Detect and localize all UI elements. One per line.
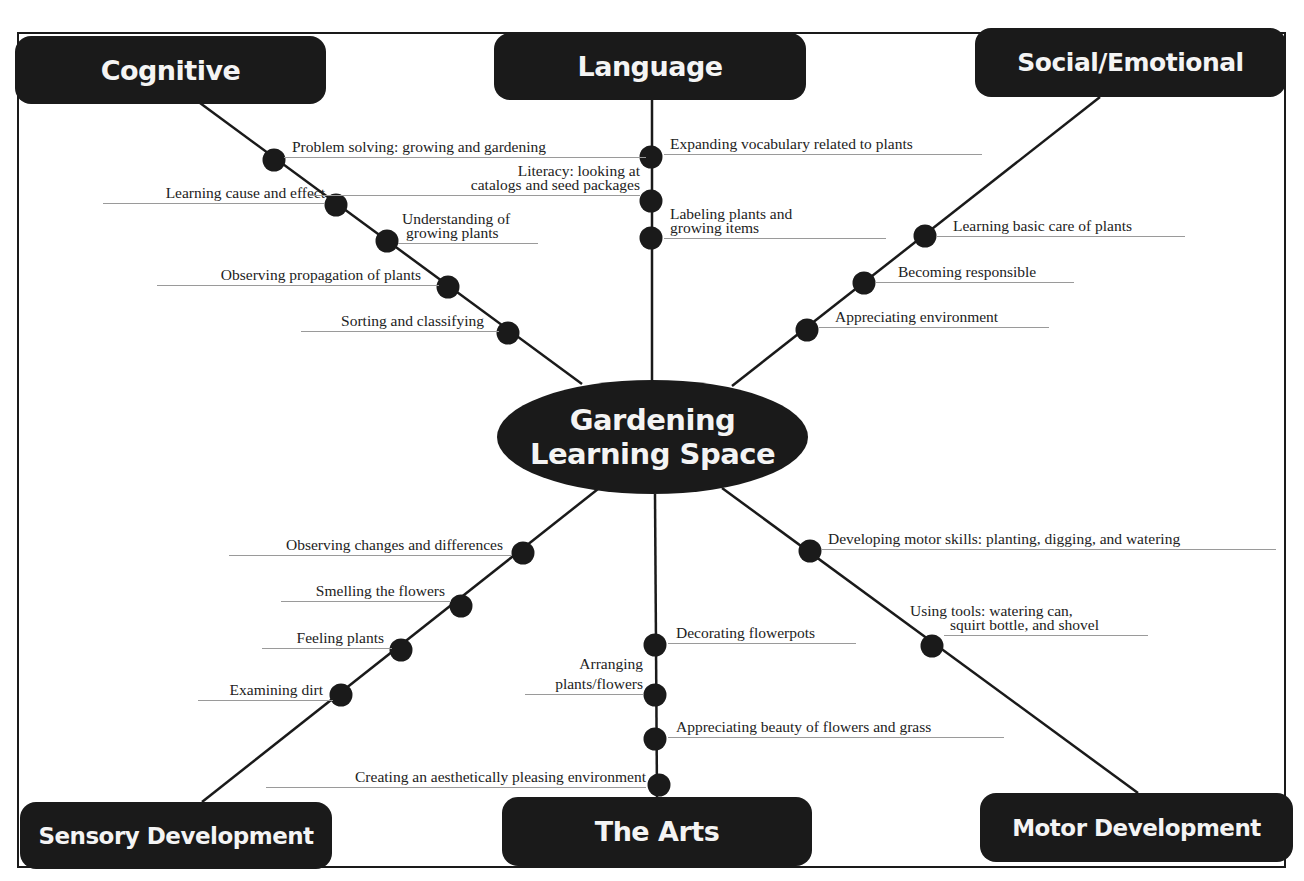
arts-item: Creating an aesthetically pleasing envir… bbox=[266, 770, 646, 788]
social-item: Appreciating environment bbox=[819, 310, 1049, 328]
center-title-line1: Gardening bbox=[570, 403, 736, 437]
category-label: The Arts bbox=[595, 816, 720, 847]
sensory-item: Observing changes and differences bbox=[229, 538, 511, 556]
motor-item: Using tools: watering can, squirt bottle… bbox=[944, 604, 1148, 636]
category-language: Language bbox=[494, 33, 806, 100]
sensory-item: Smelling the flowers bbox=[281, 584, 451, 602]
language-item: Labeling plants and growing items bbox=[664, 207, 886, 239]
language-item: Literacy: looking at catalogs and seed p… bbox=[310, 164, 640, 196]
category-sensory-development: Sensory Development bbox=[20, 802, 332, 869]
motor-item: Developing motor skills: planting, diggi… bbox=[822, 532, 1276, 550]
social-item: Learning basic care of plants bbox=[937, 219, 1185, 237]
arts-item: Arranging plants/flowers bbox=[525, 657, 643, 695]
cognitive-item: Sorting and classifying bbox=[301, 314, 499, 332]
category-label: Sensory Development bbox=[38, 823, 313, 849]
category-the-arts: The Arts bbox=[502, 797, 812, 866]
category-label: Social/Emotional bbox=[1017, 48, 1243, 77]
cognitive-item: Learning cause and effect bbox=[103, 186, 325, 204]
category-motor-development: Motor Development bbox=[980, 793, 1293, 862]
category-cognitive: Cognitive bbox=[15, 36, 326, 104]
sensory-item: Examining dirt bbox=[198, 683, 333, 701]
center-topic: Gardening Learning Space bbox=[497, 380, 808, 494]
category-label: Motor Development bbox=[1012, 815, 1261, 841]
cognitive-item: Understanding of growing plants bbox=[398, 212, 538, 244]
center-title-line2: Learning Space bbox=[530, 437, 775, 471]
category-social-emotional: Social/Emotional bbox=[975, 28, 1286, 97]
category-label: Cognitive bbox=[101, 55, 241, 86]
cognitive-item: Problem solving: growing and gardening bbox=[284, 140, 646, 158]
category-label: Language bbox=[577, 51, 722, 82]
sensory-item: Feeling plants bbox=[262, 631, 392, 649]
arts-item: Appreciating beauty of flowers and grass bbox=[668, 720, 1004, 738]
gardening-mind-map: Cognitive Language Social/Emotional Sens… bbox=[0, 0, 1304, 881]
language-item: Expanding vocabulary related to plants bbox=[664, 137, 982, 155]
social-item: Becoming responsible bbox=[876, 265, 1074, 283]
arts-item: Decorating flowerpots bbox=[668, 626, 856, 644]
cognitive-item: Observing propagation of plants bbox=[157, 268, 439, 286]
cut-off-title bbox=[0, 0, 1304, 22]
